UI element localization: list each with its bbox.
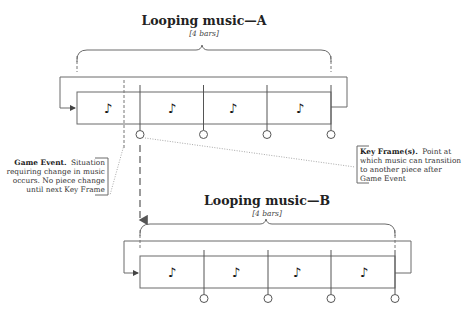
key-frame-circle: [136, 131, 144, 139]
key-frame-line-3: to another piece after: [360, 165, 442, 174]
key-frame-circle: [264, 295, 272, 303]
key-frame-line-1: Key Frame(s). Point at: [360, 147, 451, 156]
music-note-icon: ♪: [104, 101, 112, 116]
key-frame-circle: [263, 131, 271, 139]
game-event-leader-line: [110, 145, 124, 195]
loop-a-title: Looping music—A: [141, 13, 266, 28]
music-note-icon: ♪: [168, 101, 176, 116]
loop-b-title: Looping music—B: [204, 193, 330, 208]
key-frame-circle: [327, 131, 335, 139]
music-note-icon: ♪: [293, 265, 301, 280]
game-event-heading: Game Event.: [14, 158, 66, 167]
loop-b: Looping music—B [4 bars] ♪ ♪ ♪ ♪: [124, 193, 411, 303]
loop-a-bars-label: [4 bars]: [189, 29, 219, 38]
key-frame-circle: [391, 295, 399, 303]
loop-a: Looping music—A [4 bars] ♪ ♪ ♪ ♪: [60, 13, 347, 150]
key-frame-line-4: Game Event: [360, 174, 406, 183]
game-event-text: Situation: [71, 158, 105, 167]
music-note-icon: ♪: [296, 101, 304, 116]
key-frame-text: Point at: [422, 147, 451, 156]
key-frame-leader-line: [145, 138, 355, 167]
loop-a-brace: [77, 45, 331, 62]
key-frame-line-2: which music can transition: [360, 156, 461, 165]
music-transition-diagram: Looping music—A [4 bars] ♪ ♪ ♪ ♪: [0, 0, 467, 321]
music-note-icon: ♪: [360, 265, 368, 280]
game-event-annotation: Game Event. Situation requiring change i…: [6, 158, 108, 195]
game-event-line-1: Game Event. Situation: [14, 158, 105, 167]
key-frame-circle: [200, 131, 208, 139]
game-event-line-4: until next Key Frame: [26, 185, 105, 194]
key-frame-heading: Key Frame(s).: [360, 147, 418, 156]
game-event-line-3: occurs. No piece change: [13, 176, 105, 185]
loop-b-bars-label: [4 bars]: [252, 209, 282, 218]
key-frame-annotation: Key Frame(s). Point at which music can t…: [357, 146, 461, 183]
loop-b-brace: [140, 219, 395, 236]
music-note-icon: ♪: [232, 265, 240, 280]
music-note-icon: ♪: [229, 101, 237, 116]
key-frame-circle: [327, 295, 335, 303]
key-frame-circle: [200, 295, 208, 303]
game-event-line-2: requiring change in music: [6, 167, 105, 176]
music-note-icon: ♪: [168, 265, 176, 280]
